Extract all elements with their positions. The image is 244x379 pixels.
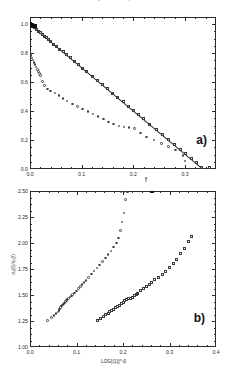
y-minor-tick xyxy=(30,230,32,231)
data-point-marker xyxy=(123,126,126,129)
data-point-marker xyxy=(106,87,109,90)
data-point-marker xyxy=(97,115,100,118)
data-point-marker xyxy=(116,96,119,99)
y-major-tick xyxy=(30,111,34,112)
y-major-tick xyxy=(30,82,34,83)
x-minor-tick xyxy=(154,167,155,169)
data-point-marker xyxy=(66,100,69,103)
y-minor-tick-right xyxy=(214,60,216,61)
x-minor-tick xyxy=(164,167,165,169)
chart-panel-b: b) xyxy=(30,191,216,347)
data-point-marker xyxy=(174,149,177,152)
y-minor-tick-right xyxy=(214,133,216,134)
x-minor-tick xyxy=(40,167,41,169)
y-minor-tick xyxy=(30,263,32,264)
x-minor-tick xyxy=(206,167,207,169)
data-point-marker xyxy=(145,136,148,139)
data-point-marker xyxy=(115,242,118,245)
y-minor-tick xyxy=(30,126,32,127)
data-point-marker xyxy=(69,56,72,59)
x-major-tick xyxy=(133,165,134,169)
y-minor-tick xyxy=(30,97,32,98)
y-tick-label: 0.8 xyxy=(16,50,28,56)
y-tick-label: 1.25 xyxy=(14,318,28,324)
x-minor-tick xyxy=(86,345,87,347)
y-minor-tick xyxy=(30,341,32,342)
x-minor-tick xyxy=(132,345,133,347)
y-tick-label: 0.4 xyxy=(16,108,28,114)
x-minor-tick-top xyxy=(188,191,189,193)
y-major-tick xyxy=(30,243,34,244)
y-major-tick-right xyxy=(212,140,216,141)
x-minor-tick-top xyxy=(92,17,93,19)
x-minor-tick xyxy=(179,345,180,347)
data-point-marker xyxy=(119,229,122,232)
data-point-marker xyxy=(39,74,42,77)
y-major-tick xyxy=(30,295,34,296)
y-minor-tick-right xyxy=(214,334,216,335)
x-tick-label: 0.3 xyxy=(181,171,188,177)
data-point-marker xyxy=(96,79,99,82)
y-minor-tick xyxy=(30,256,32,257)
panel-a-label: a) xyxy=(196,133,207,147)
data-point-marker xyxy=(93,270,96,273)
x-minor-tick xyxy=(144,167,145,169)
data-point-marker xyxy=(122,100,125,103)
x-minor-tick xyxy=(160,345,161,347)
data-point-marker xyxy=(172,262,175,265)
x-minor-tick xyxy=(51,167,52,169)
data-point-marker xyxy=(81,108,84,111)
y-tick-label: 1.50 xyxy=(14,292,28,298)
data-point-marker xyxy=(107,121,110,124)
y-minor-tick-right xyxy=(214,341,216,342)
x-minor-tick xyxy=(175,167,176,169)
x-minor-tick-top xyxy=(164,17,165,19)
x-minor-tick-top xyxy=(39,191,40,193)
y-minor-tick xyxy=(30,328,32,329)
x-tick-label: 0.2 xyxy=(119,349,126,355)
data-point-marker xyxy=(142,117,145,120)
x-minor-tick-top xyxy=(49,191,50,193)
y-minor-tick xyxy=(30,276,32,277)
x-major-tick-top xyxy=(30,17,31,21)
x-major-tick-top xyxy=(133,17,134,21)
y-major-tick-right xyxy=(212,24,216,25)
data-point-marker xyxy=(102,118,105,121)
y-minor-tick xyxy=(30,308,32,309)
y-major-tick xyxy=(30,140,34,141)
data-point-marker xyxy=(167,138,170,141)
data-point-marker xyxy=(58,94,61,97)
data-point-marker xyxy=(98,264,101,267)
data-point-marker xyxy=(161,273,164,276)
data-point-marker xyxy=(179,252,182,255)
x-minor-tick-top xyxy=(114,191,115,193)
panel-b-xaxis-title: LOG[(1)]^-β xyxy=(101,359,126,364)
panel-a-plot-area xyxy=(30,17,216,169)
y-major-tick xyxy=(30,321,34,322)
data-point-marker xyxy=(117,237,120,240)
x-minor-tick-top xyxy=(95,191,96,193)
y-minor-tick xyxy=(30,198,32,199)
y-minor-tick xyxy=(30,315,32,316)
y-minor-tick xyxy=(30,155,32,156)
x-minor-tick-top xyxy=(51,17,52,19)
y-minor-tick xyxy=(30,68,32,69)
data-point-marker xyxy=(187,240,190,243)
x-minor-tick-top xyxy=(179,191,180,193)
data-point-marker xyxy=(87,276,90,279)
data-point-marker xyxy=(153,139,156,142)
data-point-marker xyxy=(87,110,90,113)
data-point-marker xyxy=(190,235,193,238)
data-point-marker xyxy=(101,260,104,263)
x-minor-tick xyxy=(102,167,103,169)
x-minor-tick-top xyxy=(132,191,133,193)
data-point-marker xyxy=(46,319,49,322)
data-point-marker xyxy=(132,109,135,112)
x-major-tick xyxy=(82,165,83,169)
x-minor-tick-top xyxy=(67,191,68,193)
x-tick-label: 0.2 xyxy=(130,171,137,177)
x-minor-tick-top xyxy=(144,17,145,19)
y-minor-tick-right xyxy=(214,328,216,329)
data-point-marker xyxy=(77,63,80,66)
y-minor-tick-right xyxy=(214,308,216,309)
